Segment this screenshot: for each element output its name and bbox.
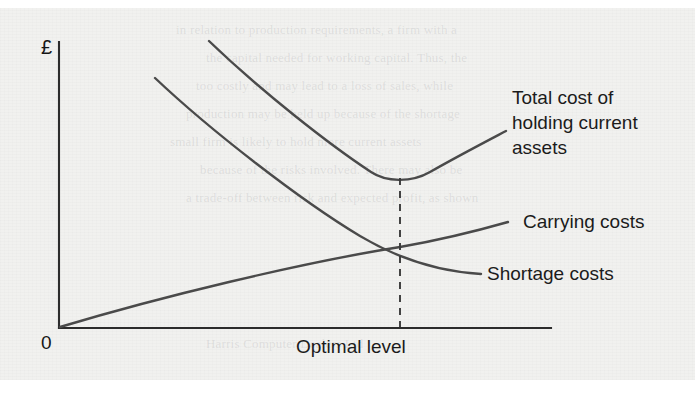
x-axis-optimal-level-label: Optimal level [296,334,406,359]
figure-root: in relation to production requirements, … [0,0,695,404]
label-carrying-costs: Carrying costs [523,209,644,234]
label-shortage-costs: Shortage costs [487,261,614,286]
label-total-cost: Total cost of holding current assets [512,85,638,160]
curve-total-cost [209,41,506,180]
y-axis-currency-label: £ [41,36,52,59]
curve-shortage-costs [155,78,481,274]
origin-label: 0 [41,332,52,354]
curve-carrying-costs [60,222,508,327]
